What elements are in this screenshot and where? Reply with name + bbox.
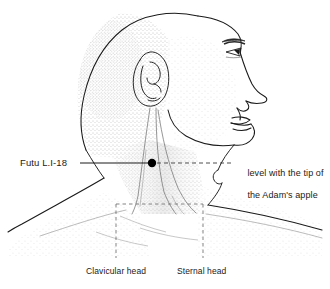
- head-neck-illustration: [0, 0, 330, 289]
- label-level-line2: the Adam's apple: [247, 190, 317, 200]
- futu-point-marker[interactable]: [148, 159, 156, 167]
- label-sternal-head: Sternal head: [177, 266, 226, 278]
- label-level-line1: level with the tip of: [247, 168, 323, 178]
- label-adams-apple-level: level with the tip of the Adam's apple: [237, 157, 324, 212]
- anatomical-figure: Futu L.I-18 level with the tip of the Ad…: [0, 0, 330, 289]
- label-clavicular-head: Clavicular head: [86, 266, 146, 278]
- label-futu-point: Futu L.I-18: [20, 157, 67, 169]
